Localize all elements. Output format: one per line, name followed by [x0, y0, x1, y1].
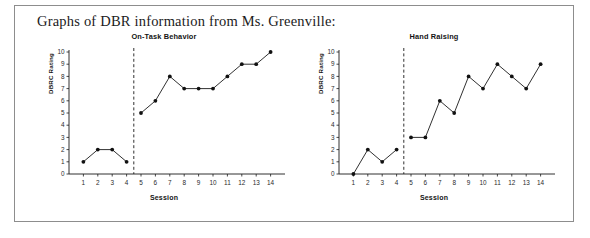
page-title: Graphs of DBR information from Ms. Green…	[37, 13, 336, 30]
svg-text:2: 2	[366, 179, 370, 186]
svg-text:7: 7	[61, 85, 65, 92]
svg-text:9: 9	[467, 179, 471, 186]
svg-text:2: 2	[331, 146, 335, 153]
svg-text:1: 1	[61, 158, 65, 165]
svg-text:10: 10	[479, 179, 487, 186]
svg-text:7: 7	[331, 85, 335, 92]
svg-text:6: 6	[331, 97, 335, 104]
svg-text:12: 12	[508, 179, 516, 186]
svg-text:2: 2	[96, 179, 100, 186]
svg-text:6: 6	[61, 97, 65, 104]
svg-text:11: 11	[494, 179, 501, 186]
svg-text:0: 0	[61, 170, 65, 177]
svg-text:5: 5	[331, 109, 335, 116]
plot-area: DBRC Rating 0123456789101234567891011121…	[33, 46, 295, 214]
svg-text:1: 1	[352, 179, 356, 186]
svg-text:4: 4	[331, 121, 335, 128]
svg-text:7: 7	[168, 179, 172, 186]
chart-title: On-Task Behavior	[33, 32, 295, 41]
svg-text:5: 5	[139, 179, 143, 186]
x-axis-label: Session	[33, 194, 295, 201]
svg-text:1: 1	[331, 158, 335, 165]
x-axis-label: Session	[303, 194, 565, 201]
svg-text:6: 6	[154, 179, 158, 186]
svg-text:9: 9	[197, 179, 201, 186]
chart-title: Hand Raising	[303, 32, 565, 41]
chart-panel-on-task-behavior: On-Task Behavior DBRC Rating 01234567891…	[33, 32, 295, 214]
document-frame: Graphs of DBR information from Ms. Green…	[14, 5, 574, 222]
svg-text:14: 14	[267, 179, 275, 186]
svg-text:10: 10	[327, 48, 335, 55]
svg-text:1: 1	[82, 179, 86, 186]
svg-text:12: 12	[238, 179, 246, 186]
svg-text:2: 2	[61, 146, 65, 153]
line-chart-svg: 0123456789101234567891011121314	[303, 46, 565, 214]
svg-text:13: 13	[253, 179, 261, 186]
svg-text:4: 4	[61, 121, 65, 128]
svg-text:5: 5	[409, 179, 413, 186]
plot-area: DBRC Rating 0123456789101234567891011121…	[303, 46, 565, 214]
svg-text:10: 10	[57, 48, 65, 55]
svg-text:9: 9	[61, 60, 65, 67]
svg-text:4: 4	[395, 179, 399, 186]
svg-text:13: 13	[523, 179, 531, 186]
svg-text:8: 8	[61, 73, 65, 80]
svg-text:3: 3	[331, 134, 335, 141]
svg-text:3: 3	[61, 134, 65, 141]
svg-text:0: 0	[331, 170, 335, 177]
svg-text:11: 11	[224, 179, 231, 186]
svg-text:3: 3	[380, 179, 384, 186]
chart-panel-hand-raising: Hand Raising DBRC Rating 012345678910123…	[303, 32, 565, 214]
svg-text:8: 8	[452, 179, 456, 186]
line-chart-svg: 0123456789101234567891011121314	[33, 46, 295, 214]
svg-text:9: 9	[331, 60, 335, 67]
svg-text:3: 3	[110, 179, 114, 186]
svg-text:7: 7	[438, 179, 442, 186]
svg-text:10: 10	[209, 179, 217, 186]
svg-text:4: 4	[125, 179, 129, 186]
svg-text:14: 14	[537, 179, 545, 186]
svg-text:8: 8	[331, 73, 335, 80]
svg-text:8: 8	[182, 179, 186, 186]
svg-text:6: 6	[424, 179, 428, 186]
svg-text:5: 5	[61, 109, 65, 116]
